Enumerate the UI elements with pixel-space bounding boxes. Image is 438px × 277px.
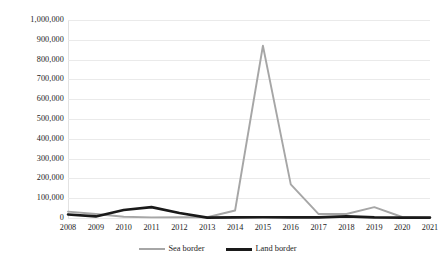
x-axis-tick-label: 2009 — [88, 224, 104, 232]
x-axis-tick-label: 2015 — [255, 224, 271, 232]
plot-area — [68, 20, 430, 218]
y-axis-tick-label: 400,000 — [2, 135, 64, 143]
chart-legend: Sea border Land border — [0, 245, 436, 253]
x-axis-tick-label: 2016 — [283, 224, 299, 232]
y-axis-tick-label: 300,000 — [2, 155, 64, 163]
y-axis-tick-label: 900,000 — [2, 36, 64, 44]
legend-item-sea-border[interactable]: Sea border — [139, 245, 204, 253]
y-axis: 0100,000200,000300,000400,000500,000600,… — [0, 20, 64, 218]
x-axis-tick-label: 2021 — [422, 224, 438, 232]
x-axis-tick-label: 2014 — [227, 224, 243, 232]
x-axis-tick-label: 2018 — [338, 224, 354, 232]
y-axis-tick-label: 600,000 — [2, 95, 64, 103]
y-axis-tick-label: 0 — [2, 214, 64, 222]
x-axis-tick-label: 2008 — [60, 224, 76, 232]
x-axis: 2008200920102011201220132014201520162017… — [68, 224, 430, 238]
y-axis-tick-label: 200,000 — [2, 174, 64, 182]
x-axis-tick-label: 2011 — [143, 224, 159, 232]
legend-label-land-border: Land border — [255, 245, 296, 253]
y-axis-tick-label: 800,000 — [2, 56, 64, 64]
y-axis-tick-label: 500,000 — [2, 115, 64, 123]
x-axis-tick-label: 2017 — [310, 224, 326, 232]
series-layer — [68, 20, 430, 218]
legend-label-sea-border: Sea border — [168, 245, 204, 253]
series-line-sea-border — [68, 46, 430, 218]
x-axis-tick-label: 2013 — [199, 224, 215, 232]
legend-swatch-sea-border-icon — [139, 248, 165, 250]
legend-item-land-border[interactable]: Land border — [226, 245, 296, 253]
y-axis-tick-label: 1,000,000 — [2, 16, 64, 24]
y-axis-tick-label: 700,000 — [2, 75, 64, 83]
x-axis-tick-label: 2019 — [366, 224, 382, 232]
x-axis-tick-label: 2020 — [394, 224, 410, 232]
x-axis-tick-label: 2012 — [171, 224, 187, 232]
x-axis-tick-label: 2010 — [116, 224, 132, 232]
legend-swatch-land-border-icon — [226, 248, 252, 251]
y-axis-tick-label: 100,000 — [2, 194, 64, 202]
